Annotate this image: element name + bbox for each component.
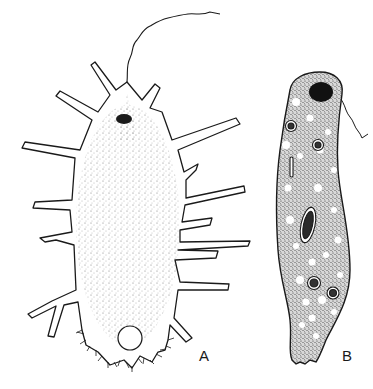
cytoplasm-a	[76, 105, 180, 345]
flagellum-a	[127, 12, 220, 82]
figure-illustration	[0, 0, 373, 389]
contractile-vacuole-a	[118, 326, 142, 350]
panel-label-a: A	[199, 347, 209, 364]
nucleus-a	[116, 114, 132, 124]
flagellum-b	[338, 95, 368, 138]
organism-b	[277, 72, 368, 364]
nucleus-b	[309, 82, 333, 102]
panel-label-b: B	[342, 347, 352, 364]
organism-a	[22, 12, 250, 372]
